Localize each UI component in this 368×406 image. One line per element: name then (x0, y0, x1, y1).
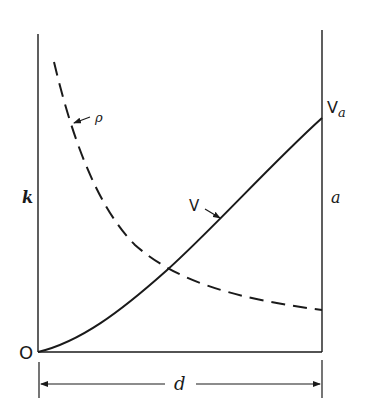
va-label-subscript: a (338, 105, 346, 120)
diagram-canvas: ρ V V a k a O d (0, 0, 368, 406)
width-dim-label-d: d (174, 373, 186, 394)
v-pointer-arrow (205, 209, 220, 218)
v-curve-label: V (189, 197, 200, 215)
rho-label: ρ (94, 110, 103, 125)
va-label-main: V (327, 98, 338, 117)
curve-rho (54, 62, 322, 310)
right-axis-label-a: a (331, 188, 341, 207)
left-axis-label-k: k (22, 188, 33, 207)
rho-pointer-arrow (74, 117, 90, 123)
origin-label: O (19, 342, 33, 363)
